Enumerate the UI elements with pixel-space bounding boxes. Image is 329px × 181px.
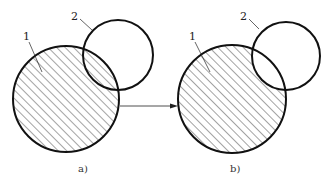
panel-a: 1 2 a) <box>13 10 153 174</box>
panel-a-label-2: 2 <box>71 10 78 23</box>
panel-a-label-1: 1 <box>23 30 30 43</box>
arrow-head-icon <box>170 104 178 109</box>
panel-a-caption: a) <box>78 163 88 174</box>
transition-arrow <box>120 104 178 109</box>
panel-b-label-1: 1 <box>189 30 196 43</box>
panel-b-label-2: 2 <box>240 10 247 23</box>
diagram-canvas: 1 2 a) 1 2 b) <box>0 0 329 181</box>
panel-b: 1 2 b) <box>178 10 320 174</box>
panel-b-leader-2 <box>249 19 259 29</box>
panel-b-caption: b) <box>230 163 240 174</box>
diagram-figure: 1 2 a) 1 2 b) <box>0 0 329 181</box>
panel-a-leader-2 <box>80 19 92 30</box>
